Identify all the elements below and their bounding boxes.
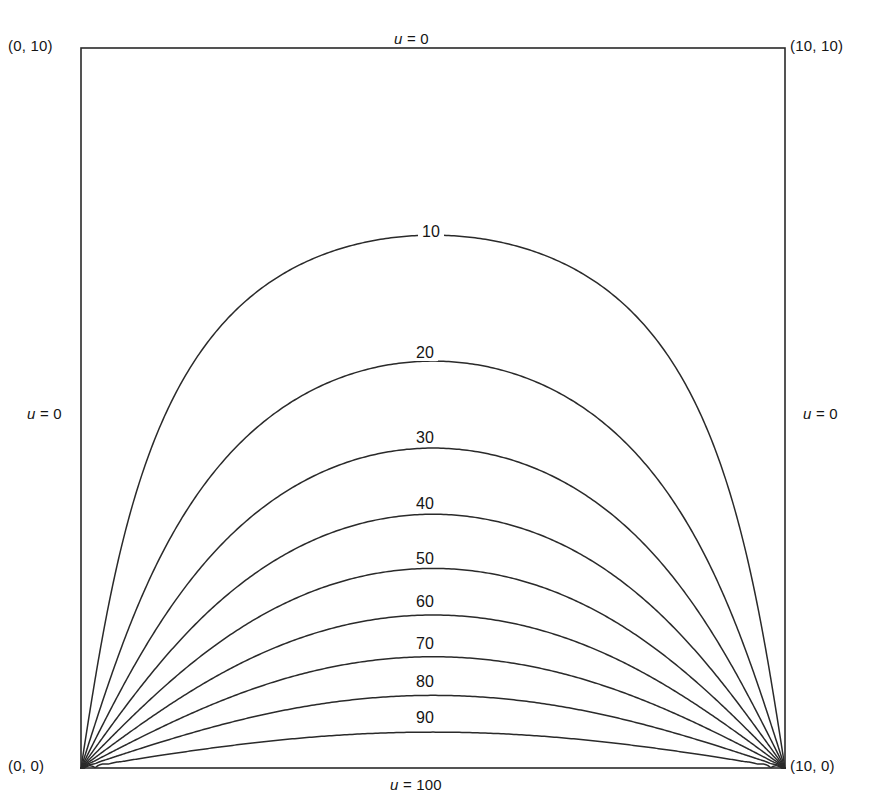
contour-label-80: 80 <box>412 674 438 690</box>
boundary-variable-top: u <box>394 30 403 47</box>
boundary-value-right: = 0 <box>816 405 838 422</box>
boundary-variable-left: u <box>27 405 36 422</box>
boundary-label-left: u = 0 <box>27 406 62 421</box>
corner-label-top-left: (0, 10) <box>8 38 53 53</box>
contour-label-20: 20 <box>412 345 438 361</box>
contour-label-50: 50 <box>412 551 438 567</box>
plate-boundary-rect <box>81 48 785 768</box>
contour-label-70: 70 <box>412 636 438 652</box>
contour-curve-90 <box>81 732 785 768</box>
boundary-label-top: u = 0 <box>394 31 429 46</box>
boundary-variable-right: u <box>803 405 812 422</box>
boundary-variable-bottom: u <box>390 776 399 793</box>
contour-label-30: 30 <box>412 430 438 446</box>
contour-label-90: 90 <box>412 710 438 726</box>
contour-figure: (0, 0) (0, 10) (10, 0) (10, 10) u = 0 u … <box>0 0 872 809</box>
contour-label-10: 10 <box>418 224 444 240</box>
corner-label-top-right: (10, 10) <box>790 38 843 53</box>
boundary-value-left: = 0 <box>40 405 62 422</box>
corner-label-bottom-left: (0, 0) <box>8 758 44 773</box>
boundary-value-bottom: = 100 <box>403 776 442 793</box>
boundary-label-bottom: u = 100 <box>390 777 442 792</box>
boundary-value-top: = 0 <box>407 30 429 47</box>
contour-label-60: 60 <box>412 594 438 610</box>
contour-label-40: 40 <box>412 496 438 512</box>
corner-label-bottom-right: (10, 0) <box>790 758 835 773</box>
boundary-label-right: u = 0 <box>803 406 838 421</box>
